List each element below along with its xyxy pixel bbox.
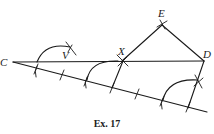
arc-d-cross2 bbox=[194, 78, 203, 86]
label-d: D bbox=[202, 48, 211, 60]
line-ed bbox=[162, 25, 204, 61]
arc-x bbox=[87, 61, 118, 80]
construction-diagram: C D E X V bbox=[0, 0, 214, 134]
division-ticks bbox=[34, 64, 190, 112]
label-x: X bbox=[117, 45, 126, 57]
label-c: C bbox=[0, 56, 8, 68]
line-lower bbox=[13, 62, 207, 112]
line-xe bbox=[122, 25, 162, 61]
arc-d bbox=[163, 80, 198, 100]
figure-caption: Ex. 17 bbox=[0, 118, 214, 129]
label-e: E bbox=[157, 7, 165, 19]
